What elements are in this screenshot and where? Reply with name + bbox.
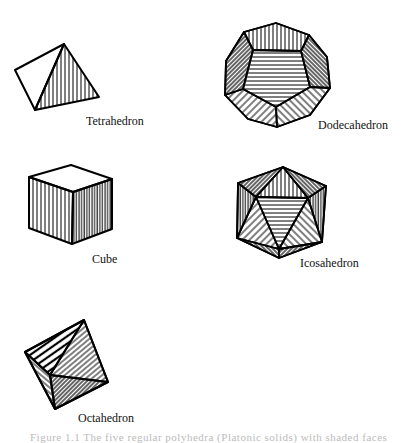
dodecahedron-shape — [225, 23, 330, 127]
cube-label: Cube — [92, 252, 117, 267]
icosahedron-label: Icosahedron — [300, 256, 359, 271]
cube-shape — [29, 165, 112, 244]
tetrahedron-shape — [15, 44, 99, 110]
icosahedron-shape — [237, 167, 326, 258]
figure-caption: Figure 1.1 The five regular polyhedra (P… — [30, 431, 387, 443]
octahedron-shape — [25, 320, 108, 409]
dodecahedron-label: Dodecahedron — [318, 118, 388, 133]
octahedron-label: Octahedron — [78, 411, 134, 426]
tetrahedron-label: Tetrahedron — [86, 114, 144, 129]
